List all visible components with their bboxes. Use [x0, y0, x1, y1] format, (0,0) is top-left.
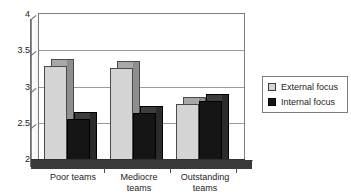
bar-mediocre-teams-internal-focus[interactable]	[133, 106, 156, 167]
bar-chart: 4 3.5 3 2.5 2	[0, 0, 351, 194]
bar-front-face	[199, 101, 222, 167]
bar-front-face	[44, 66, 67, 167]
x-tick-label-mediocre-teams: Mediocre teams	[108, 172, 170, 193]
bar-front-face	[110, 68, 133, 167]
x-tick-mark-2	[170, 168, 171, 173]
chart-floor-corner	[245, 160, 253, 169]
legend: External focus Internal focus	[262, 76, 348, 113]
bar-side-face	[222, 94, 229, 160]
x-tick-label-poor-teams: Poor teams	[40, 172, 106, 183]
legend-item-external-focus[interactable]: External focus	[268, 81, 342, 93]
bar-poor-teams-external-focus[interactable]	[44, 59, 67, 167]
bar-side-face	[156, 106, 163, 160]
legend-label-internal-focus: Internal focus	[281, 98, 335, 107]
legend-swatch-internal-focus-icon	[268, 98, 276, 106]
bar-outstanding-teams-external-focus[interactable]	[176, 97, 199, 167]
legend-item-internal-focus[interactable]: Internal focus	[268, 96, 342, 108]
bar-outstanding-teams-internal-focus[interactable]	[199, 94, 222, 167]
bar-front-face	[176, 104, 199, 167]
x-tick-label-outstanding-teams: Outstanding teams	[172, 172, 238, 193]
legend-label-external-focus: External focus	[281, 83, 338, 92]
bar-side-face	[90, 112, 97, 160]
bar-mediocre-teams-external-focus[interactable]	[110, 61, 133, 167]
chart-floor	[31, 160, 252, 169]
legend-swatch-external-focus-icon	[268, 83, 276, 91]
